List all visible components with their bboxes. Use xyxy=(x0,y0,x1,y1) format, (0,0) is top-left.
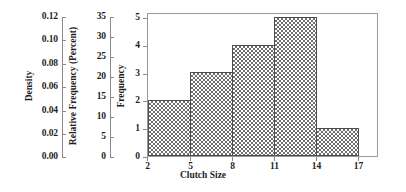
relfreq-tick-mark xyxy=(110,137,114,138)
frequency-tick-label: 4 xyxy=(125,40,140,50)
density-tick-mark xyxy=(62,17,66,18)
relfreq-tick-mark xyxy=(110,157,114,158)
x-axis-title: Clutch Size xyxy=(0,170,406,180)
plot-area xyxy=(147,13,378,157)
density-tick-mark xyxy=(62,134,66,135)
relfreq-tick-mark xyxy=(110,17,114,18)
frequency-tick-label: 1 xyxy=(125,123,140,133)
density-tick-label: 0.04 xyxy=(28,105,58,115)
density-tick-mark xyxy=(62,64,66,65)
histogram-bar xyxy=(148,100,191,156)
histogram-bar xyxy=(274,17,317,156)
relfreq-tick-label: 5 xyxy=(88,131,106,141)
density-tick-label: 0.10 xyxy=(28,34,58,44)
relfreq-tick-label: 10 xyxy=(88,111,106,121)
density-tick-label: 0.02 xyxy=(28,128,58,138)
density-tick-mark xyxy=(62,87,66,88)
relfreq-tick-label: 25 xyxy=(88,51,106,61)
relfreq-tick-mark xyxy=(110,77,114,78)
frequency-tick-label: 0 xyxy=(125,151,140,161)
density-tick-label: 0.00 xyxy=(28,151,58,161)
frequency-tick-label: 3 xyxy=(125,68,140,78)
histogram-bar xyxy=(232,45,275,156)
histogram-figure: Density 0.12 0.10 0.08 0.06 0.04 0.02 0.… xyxy=(0,0,406,192)
density-tick-mark xyxy=(62,40,66,41)
frequency-axis-title: Frequency xyxy=(116,56,126,116)
relfreq-tick-mark xyxy=(110,37,114,38)
relative-frequency-axis-title: Relative Frequency (Percent) xyxy=(68,20,78,152)
frequency-tick-label: 5 xyxy=(125,12,140,22)
relfreq-tick-mark xyxy=(110,117,114,118)
density-tick-label: 0.08 xyxy=(28,58,58,68)
density-tick-mark xyxy=(62,111,66,112)
histogram-bar xyxy=(190,72,233,156)
relfreq-tick-mark xyxy=(110,97,114,98)
relfreq-tick-label: 0 xyxy=(88,151,106,161)
relfreq-tick-label: 15 xyxy=(88,91,106,101)
histogram-bar xyxy=(316,128,359,156)
density-tick-mark xyxy=(62,157,66,158)
frequency-tick-label: 2 xyxy=(125,95,140,105)
density-tick-label: 0.12 xyxy=(28,11,58,21)
relfreq-tick-label: 20 xyxy=(88,71,106,81)
density-tick-label: 0.06 xyxy=(28,81,58,91)
relfreq-tick-label: 30 xyxy=(88,31,106,41)
relfreq-tick-label: 35 xyxy=(88,11,106,21)
relfreq-tick-mark xyxy=(110,57,114,58)
